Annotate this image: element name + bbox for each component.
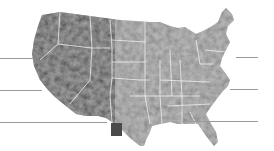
leader-line-right-3 [182,121,258,122]
highlighted-region [111,123,122,136]
leader-line-left-1 [0,58,34,59]
leader-line-left-3 [0,122,107,123]
leader-line-right-2 [230,89,258,90]
us-map [0,0,274,151]
leader-line-left-2 [0,90,42,91]
leader-line-right-1 [236,57,258,58]
us-relief-map-graphic [0,0,274,151]
